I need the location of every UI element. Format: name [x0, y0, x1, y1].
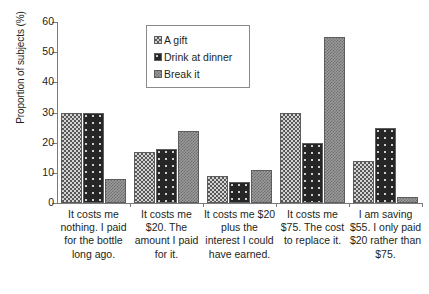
y-axis-tick-label: 0 [48, 196, 54, 209]
x-axis-category-label: It costs me nothing. I paid for the bott… [57, 208, 130, 261]
legend-label: Drink at dinner [164, 51, 232, 63]
bar-chart: Proportion of subjects (%) 0102030405060… [0, 0, 429, 294]
bar [353, 161, 374, 203]
x-axis-category-label: It costs me $75. The cost to replace it. [276, 208, 349, 248]
x-axis-line [57, 203, 422, 204]
x-axis-separator [203, 203, 204, 207]
y-axis-tick-label: 10 [42, 166, 54, 179]
bar [375, 128, 396, 203]
bar [229, 182, 250, 203]
bar [397, 197, 418, 203]
y-axis-tick-label: 30 [42, 106, 54, 119]
x-axis-category-label: I am saving $55. I only paid $20 rather … [349, 208, 422, 261]
y-axis-tick-label: 20 [42, 136, 54, 149]
x-axis-category-labels: It costs me nothing. I paid for the bott… [57, 208, 422, 292]
bar [280, 113, 301, 204]
bar [178, 131, 199, 203]
x-axis-category-label: It costs me $20. The amount I paid for i… [130, 208, 203, 261]
x-axis-category-label: It costs me $20 plus the interest I coul… [203, 208, 276, 261]
legend-swatch-break-it [154, 70, 162, 78]
x-axis-separator [349, 203, 350, 207]
bar-group [349, 22, 422, 203]
legend-label: A gift [164, 34, 187, 46]
legend-swatch-a-gift [154, 36, 162, 44]
bar [83, 113, 104, 204]
bar [302, 143, 323, 203]
legend-swatch-drink-at-dinner [154, 53, 162, 61]
x-axis-separator [130, 203, 131, 207]
bar-group [276, 22, 349, 203]
bar [61, 113, 82, 204]
y-axis-tick-label: 40 [42, 75, 54, 88]
legend-item: A gift [154, 31, 243, 48]
bar [105, 179, 126, 203]
y-axis-tick-label: 50 [42, 45, 54, 58]
bar-group [57, 22, 130, 203]
y-axis-title: Proportion of subjects (%) [15, 0, 26, 148]
bar [156, 149, 177, 203]
x-axis-separator [276, 203, 277, 207]
x-axis-separator [422, 203, 423, 207]
bar [207, 176, 228, 203]
bar [324, 37, 345, 203]
legend-label: Break it [164, 68, 200, 80]
legend-item: Break it [154, 65, 243, 82]
legend: A gift Drink at dinner Break it [146, 25, 250, 88]
bar [134, 152, 155, 203]
legend-item: Drink at dinner [154, 48, 243, 65]
y-axis-tick-label: 60 [42, 15, 54, 28]
bar [251, 170, 272, 203]
